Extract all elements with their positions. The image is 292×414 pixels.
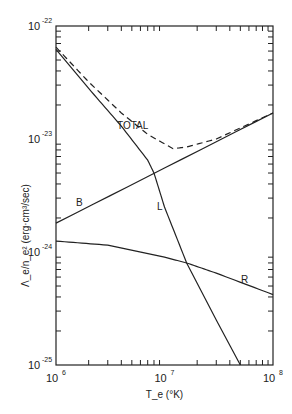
y-tick-label-exponent: -25 bbox=[42, 356, 52, 363]
x-axis-label: T_e (°K) bbox=[146, 389, 183, 400]
series-total bbox=[56, 47, 273, 149]
cooling-rate-chart: 10610710810-2210-2310-2410-25T_e (°K)Λ_e… bbox=[0, 0, 292, 414]
y-tick-label: 10 bbox=[28, 20, 40, 32]
x-tick-label: 10 bbox=[154, 372, 166, 384]
y-tick-label-exponent: -24 bbox=[42, 243, 52, 250]
label-total: TOTAL bbox=[117, 120, 149, 131]
x-tick-label-exponent: 8 bbox=[279, 369, 283, 376]
x-tick-label: 10 bbox=[46, 372, 58, 384]
plot-frame bbox=[56, 26, 273, 365]
y-tick-label-exponent: -23 bbox=[42, 130, 52, 137]
x-tick-label-exponent: 6 bbox=[62, 369, 66, 376]
x-tick-label: 10 bbox=[263, 372, 275, 384]
label-r: R bbox=[241, 274, 248, 285]
label-l: L bbox=[157, 201, 163, 212]
label-b: B bbox=[76, 197, 83, 208]
y-axis-label: Λ_e/n_e² (erg·cm³/sec) bbox=[20, 184, 31, 287]
y-tick-label: 10 bbox=[28, 133, 40, 145]
y-tick-label: 10 bbox=[28, 359, 40, 371]
series-l bbox=[56, 49, 240, 365]
x-tick-label-exponent: 7 bbox=[171, 369, 175, 376]
y-tick-label-exponent: -22 bbox=[42, 17, 52, 24]
series-r bbox=[56, 241, 273, 295]
